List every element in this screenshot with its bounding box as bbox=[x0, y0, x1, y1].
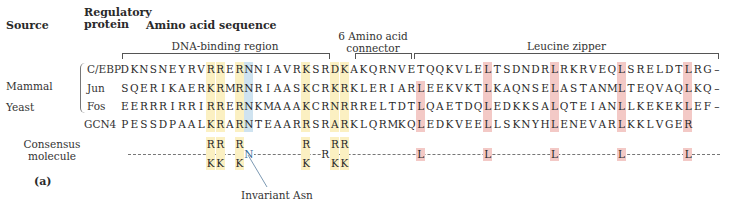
invariant-asn-label: Invariant Asn bbox=[241, 189, 313, 201]
invariant-asn-pointer-line bbox=[0, 0, 737, 208]
panel-label: (a) bbox=[34, 176, 52, 188]
